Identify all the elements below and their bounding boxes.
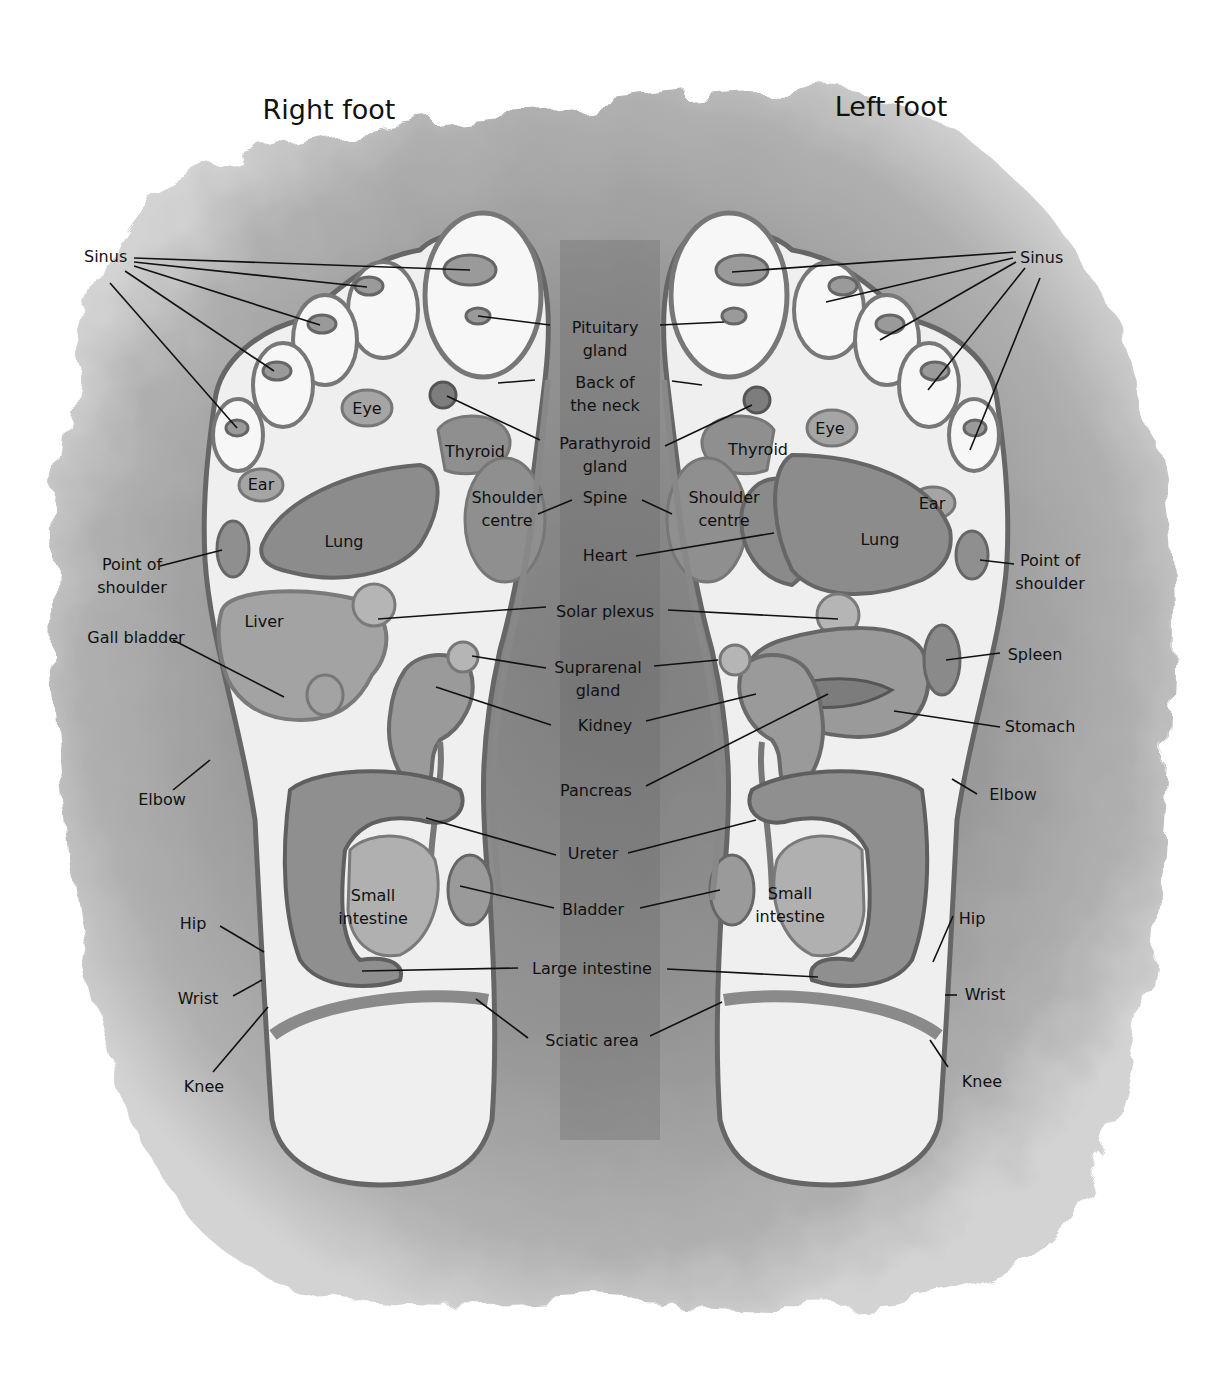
right-foot-title: Right foot: [263, 94, 396, 125]
reflexology-foot-map: Right foot Left foot SinusPituitarygland…: [0, 0, 1212, 1376]
label-ureter: Ureter: [568, 844, 619, 863]
label-gall-bladder: Gall bladder: [87, 628, 185, 647]
label-elbow-right: Elbow: [138, 790, 186, 809]
label-knee-right: Knee: [184, 1077, 224, 1096]
label-thyroid-left: Thyroid: [727, 440, 788, 459]
label-ear-right: Ear: [248, 475, 275, 494]
label-thyroid-right: Thyroid: [444, 442, 505, 461]
label-spleen: Spleen: [1008, 645, 1063, 664]
label-sinus-right: Sinus: [84, 247, 127, 266]
label-knee-left: Knee: [962, 1072, 1002, 1091]
label-lung-right: Lung: [324, 532, 363, 551]
label-pancreas: Pancreas: [560, 781, 632, 800]
label-solar-plexus: Solar plexus: [556, 602, 654, 621]
label-wrist-left: Wrist: [965, 985, 1006, 1004]
right-bladder-zone: [448, 855, 492, 925]
right-point-of-shoulder-zone: [217, 521, 249, 577]
label-hip-left: Hip: [959, 909, 986, 928]
label-stomach: Stomach: [1005, 717, 1076, 736]
label-eye-left: Eye: [815, 419, 844, 438]
label-sciatic-area: Sciatic area: [545, 1031, 638, 1050]
right-parathyroid-spot: [430, 382, 456, 408]
label-wrist-right: Wrist: [178, 989, 219, 1008]
label-elbow-left: Elbow: [989, 785, 1037, 804]
label-liver: Liver: [244, 612, 284, 631]
label-lung-left: Lung: [860, 530, 899, 549]
label-hip-right: Hip: [180, 914, 207, 933]
label-spine: Spine: [583, 488, 628, 507]
label-heart: Heart: [583, 546, 628, 565]
right-solar-plexus-zone: [353, 584, 395, 626]
left-foot-title: Left foot: [835, 91, 948, 122]
label-ear-left: Ear: [919, 494, 946, 513]
label-large-intestine: Large intestine: [532, 959, 652, 978]
label-sinus-left: Sinus: [1020, 248, 1063, 267]
label-kidney: Kidney: [578, 716, 633, 735]
label-eye-right: Eye: [352, 399, 381, 418]
spleen-zone: [924, 625, 960, 695]
gall-bladder-zone: [307, 675, 343, 715]
label-bladder: Bladder: [562, 900, 624, 919]
